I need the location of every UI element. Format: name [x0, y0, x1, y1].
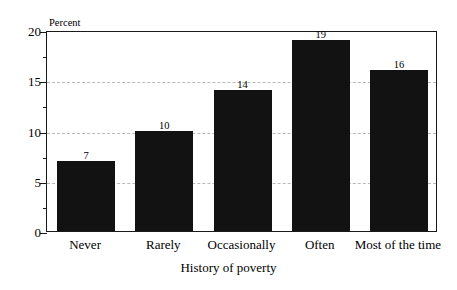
y-axis-major-tick: [40, 32, 47, 33]
bar[interactable]: [292, 40, 350, 231]
y-axis-minor-tick: [43, 107, 48, 108]
y-axis-title: Percent: [49, 17, 81, 29]
y-axis-major-tick: [40, 233, 47, 234]
bar-chart: Percent 710141916 05101520 NeverRarelyOc…: [0, 0, 457, 290]
bar[interactable]: [57, 161, 115, 231]
y-axis-tick-label: 10: [3, 125, 41, 138]
y-axis-tick-label: 5: [3, 175, 41, 188]
y-axis-major-tick: [40, 183, 47, 184]
y-axis-major-tick: [40, 82, 47, 83]
bar[interactable]: [370, 70, 428, 231]
plot-area: 710141916: [46, 31, 437, 232]
bar[interactable]: [135, 131, 193, 232]
y-axis-tick-label: 15: [3, 75, 41, 88]
bar-value-label: 7: [56, 150, 116, 161]
y-axis-minor-tick: [43, 158, 48, 159]
bar[interactable]: [214, 90, 272, 231]
bar-value-label: 14: [213, 79, 273, 90]
y-axis-tick-label: 20: [3, 25, 41, 38]
y-axis-major-tick: [40, 133, 47, 134]
y-axis-minor-tick: [43, 208, 48, 209]
x-axis-title: History of poverty: [0, 260, 457, 275]
bar-value-label: 16: [369, 59, 429, 70]
bar-value-label: 19: [291, 29, 351, 40]
x-axis-tick-label: Most of the time: [328, 237, 457, 252]
bar-value-label: 10: [134, 120, 194, 131]
y-axis-minor-tick: [43, 57, 48, 58]
